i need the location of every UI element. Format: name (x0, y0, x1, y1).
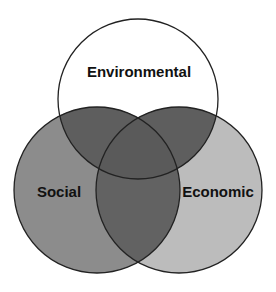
economic-label: Economic (182, 183, 254, 200)
social-label: Social (37, 183, 81, 200)
venn-diagram: Environmental Social Economic (0, 0, 276, 292)
environmental-label: Environmental (87, 63, 191, 80)
